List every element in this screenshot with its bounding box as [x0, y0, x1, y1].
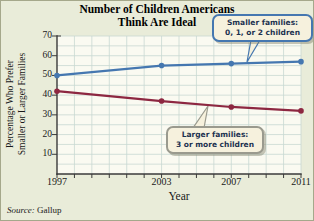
callout-smaller-line1: Smaller families:	[217, 18, 308, 28]
y-axis-label: Percentage Who Prefer Smaller or Larger …	[5, 35, 29, 173]
y-tick-label: 30	[30, 109, 52, 119]
data-point	[298, 108, 304, 114]
data-point	[159, 98, 165, 104]
data-point	[298, 59, 304, 65]
data-point	[54, 73, 60, 79]
chart-figure: Number of Children Americans Think Are I…	[0, 0, 314, 221]
callout-smaller-line2: 0, 1, or 2 children	[217, 28, 308, 38]
data-point	[228, 61, 234, 67]
source-label: Source:	[7, 205, 35, 215]
data-point	[159, 63, 165, 69]
data-point	[228, 104, 234, 110]
source-value: Gallup	[37, 205, 62, 215]
y-tick-label: 10	[30, 148, 52, 158]
y-tick-label: 50	[30, 69, 52, 79]
y-tick-label: 60	[30, 50, 52, 60]
y-axis-label-line1: Percentage Who Prefer	[5, 35, 17, 173]
data-point	[54, 88, 60, 94]
callout-larger-line2: 3 or more children	[171, 140, 259, 150]
x-tick-label: 2011	[281, 176, 314, 187]
callout-larger-families: Larger families: 3 or more children	[166, 126, 264, 154]
y-axis-label-line2: Smaller or Larger Families	[17, 35, 29, 173]
callout-smaller-families: Smaller families: 0, 1, or 2 children	[212, 14, 313, 42]
x-tick-label: 2003	[142, 176, 182, 187]
y-tick-label: 40	[30, 89, 52, 99]
x-tick-label: 1997	[37, 176, 77, 187]
callout-larger-line1: Larger families:	[171, 130, 259, 140]
x-tick-label: 2007	[211, 176, 251, 187]
x-axis-label: Year	[57, 190, 301, 202]
y-tick-label: 70	[30, 30, 52, 40]
y-tick-label: 20	[30, 129, 52, 139]
source-note: Source: Gallup	[7, 205, 61, 215]
